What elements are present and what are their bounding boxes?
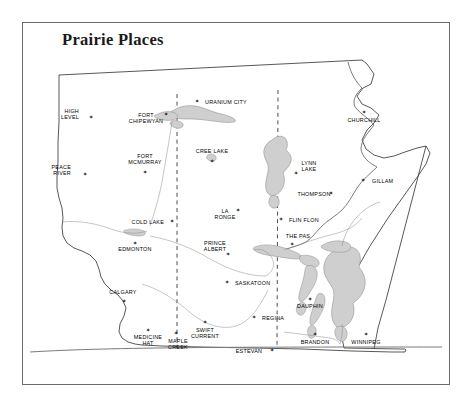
city-marker: ✶ (225, 279, 230, 285)
city-marker: ✶ (195, 98, 200, 104)
city-marker: ✶ (308, 296, 313, 302)
city-label-line: LAKE (302, 166, 317, 172)
city-label-line: COLD LAKE (131, 219, 164, 225)
city-label[interactable]: REGINA (262, 315, 284, 321)
city-label[interactable]: THE PAS (286, 233, 310, 239)
city-label[interactable]: ESTEVAN (236, 348, 263, 354)
city-label[interactable]: WINNIPEG (351, 339, 380, 345)
city-label-line: RONGE (214, 214, 235, 220)
city-label-line: ESTEVAN (236, 348, 263, 354)
city-label[interactable]: COLD LAKE (131, 219, 164, 225)
city-marker: ✶ (364, 331, 369, 337)
city-label-line: SASKATOON (235, 280, 270, 286)
city-label[interactable]: THOMPSON (297, 191, 330, 197)
reindeer-lake-south-arm (269, 195, 279, 208)
city-label[interactable]: MAPLECREEK (168, 338, 188, 351)
city-label[interactable]: CALGARY (109, 289, 136, 295)
city-label-line: ALBERT (204, 246, 226, 252)
city-marker: ✶ (270, 347, 275, 353)
city-label-line: FLIN FLON (289, 217, 319, 223)
city-label[interactable]: URANIUM CITY (205, 99, 247, 105)
city-marker: ✶ (174, 330, 179, 336)
city-label-line: MCMURRAY (128, 159, 161, 165)
city-label[interactable]: EDMONTON (118, 246, 151, 252)
city-marker: ✶ (210, 158, 215, 164)
city-marker: ✶ (294, 170, 299, 176)
city-label-line: REGINA (262, 315, 284, 321)
city-label-line: CHURCHILL (347, 117, 380, 123)
city-marker: ✶ (170, 218, 175, 224)
city-label-line: LEVEL (61, 114, 79, 120)
city-label-line: GILLAM (372, 178, 393, 184)
city-label-line: WINNIPEG (351, 339, 380, 345)
city-label-line: HAT (134, 340, 162, 346)
city-label-line: CURRENT (191, 333, 219, 339)
city-marker: ✶ (89, 114, 94, 120)
city-marker: ✶ (252, 314, 257, 320)
city-label-line: URANIUM CITY (205, 99, 247, 105)
city-label-line: CREE LAKE (196, 148, 229, 154)
city-label[interactable]: FLIN FLON (289, 217, 319, 223)
prairie-places-map-figure: Prairie Places (0, 0, 475, 407)
city-marker: ✶ (361, 177, 366, 183)
city-marker: ✶ (164, 111, 169, 117)
city-marker: ✶ (313, 331, 318, 337)
map-drawing-canvas: ✶✶✶✶✶✶✶✶✶✶✶✶✶✶✶✶✶✶✶✶✶✶✶✶✶✶ (22, 22, 450, 385)
city-marker: ✶ (146, 327, 151, 333)
city-label[interactable]: FORTMCMURRAY (128, 153, 161, 166)
city-marker: ✶ (279, 216, 284, 222)
city-label-line: CALGARY (109, 289, 136, 295)
city-label[interactable]: SWIFTCURRENT (191, 327, 219, 340)
city-label[interactable]: PRINCEALBERT (204, 240, 226, 253)
city-label[interactable]: PEACERIVER (51, 164, 71, 177)
city-label[interactable]: CREE LAKE (196, 148, 229, 154)
city-marker: ✶ (226, 251, 231, 257)
city-label[interactable]: GILLAM (372, 178, 393, 184)
city-label-line: DAUPHIN (297, 303, 323, 309)
city-label-line: BRANDON (301, 339, 330, 345)
city-marker: ✶ (290, 241, 295, 247)
city-label-line: EDMONTON (118, 246, 151, 252)
city-label-line: THOMPSON (297, 191, 330, 197)
city-label[interactable]: HIGHLEVEL (61, 108, 79, 121)
city-marker: ✶ (203, 319, 208, 325)
city-marker: ✶ (236, 207, 241, 213)
city-label-line: RIVER (51, 170, 71, 176)
city-label[interactable]: DAUPHIN (297, 303, 323, 309)
city-label[interactable]: FORTCHIPEWYAN (129, 112, 164, 125)
city-marker: ✶ (83, 171, 88, 177)
city-label-line: THE PAS (286, 233, 310, 239)
city-label[interactable]: LYNNLAKE (302, 160, 317, 173)
city-label[interactable]: BRANDON (301, 339, 330, 345)
city-marker: ✶ (122, 298, 127, 304)
city-label[interactable]: CHURCHILL (347, 117, 380, 123)
city-label[interactable]: SASKATOON (235, 280, 270, 286)
city-marker: ✶ (143, 169, 148, 175)
city-label-line: CHIPEWYAN (129, 118, 164, 124)
city-label[interactable]: LARONGE (214, 208, 235, 221)
city-label-line: CREEK (168, 344, 188, 350)
city-marker: ✶ (362, 109, 367, 115)
city-label[interactable]: MEDICINEHAT (134, 334, 162, 347)
